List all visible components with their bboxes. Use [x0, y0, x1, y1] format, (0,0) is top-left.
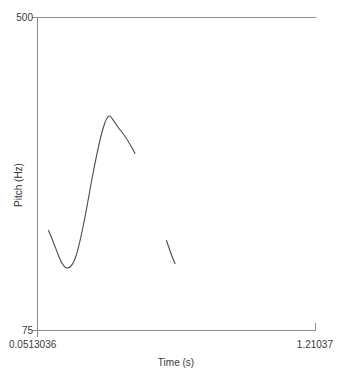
pitch-contour-figure: 500 75 0.0513036 1.21037 Time (s) Pitch … [0, 0, 340, 375]
y-axis-title: Pitch (Hz) [13, 163, 24, 207]
x-axis-title: Time (s) [158, 357, 194, 368]
y-axis-max-label: 500 [16, 12, 33, 23]
x-axis-max-label: 1.21037 [297, 339, 334, 350]
pitch-plot-svg: 500 75 0.0513036 1.21037 Time (s) Pitch … [0, 0, 340, 375]
x-axis-min-label: 0.0513036 [9, 339, 57, 350]
y-axis-min-label: 75 [22, 325, 34, 336]
figure-background [0, 0, 340, 375]
